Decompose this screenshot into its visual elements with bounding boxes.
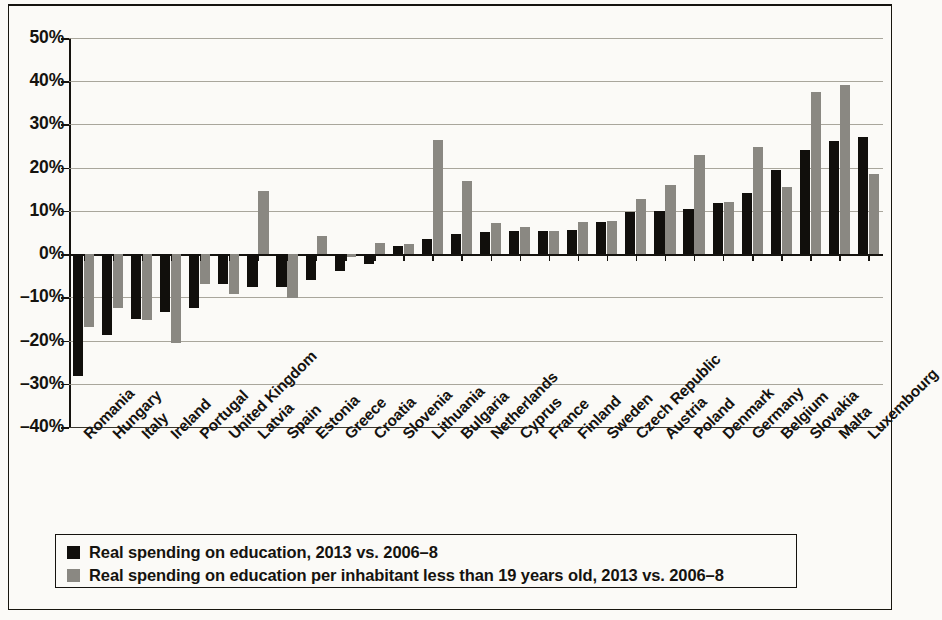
bar-dark-spain <box>276 254 286 286</box>
bar-group <box>800 38 821 427</box>
y-axis-label--30: –30% <box>6 373 64 394</box>
bar-dark-germany <box>742 193 752 254</box>
bar-group <box>829 38 850 427</box>
plot-area <box>69 38 883 427</box>
bar-dark-finland <box>567 230 577 254</box>
y-axis-label--10: –10% <box>6 286 64 307</box>
legend-label-0: Real spending on education, 2013 vs. 200… <box>89 543 438 562</box>
bar-gray-ireland <box>171 254 181 343</box>
x-tick-27 <box>868 254 869 261</box>
bar-dark-portugal <box>189 254 199 308</box>
bar-dark-france <box>538 231 548 254</box>
bar-dark-united-kingdom <box>218 254 228 284</box>
bar-dark-sweden <box>596 222 606 254</box>
bar-gray-germany <box>753 147 763 254</box>
bar-dark-belgium <box>771 170 781 254</box>
bar-gray-cyprus <box>520 227 530 254</box>
x-tick-15 <box>520 254 521 261</box>
x-tick-12 <box>432 254 433 261</box>
bar-dark-ireland <box>160 254 170 312</box>
legend-entry-1: Real spending on education per inhabitan… <box>67 564 796 587</box>
x-tick-3 <box>171 254 172 261</box>
bar-gray-sweden <box>607 221 617 254</box>
x-tick-6 <box>258 254 259 261</box>
bar-dark-bulgaria <box>451 234 461 254</box>
bar-dark-lithuania <box>422 239 432 254</box>
bar-gray-spain <box>287 254 297 298</box>
y-tick--10 <box>61 297 69 299</box>
y-axis-label-30: 30% <box>6 113 64 134</box>
bar-gray-belgium <box>782 187 792 254</box>
bar-group <box>654 38 675 427</box>
bar-gray-bulgaria <box>462 181 472 254</box>
y-tick-40 <box>61 81 69 83</box>
bar-dark-luxembourg <box>858 137 868 254</box>
bar-dark-estonia <box>306 254 316 280</box>
y-tick--40 <box>61 427 69 429</box>
bar-gray-malta <box>840 85 850 254</box>
y-tick-10 <box>61 211 69 213</box>
bar-gray-romania <box>84 254 94 327</box>
x-tick-8 <box>316 254 317 261</box>
x-tick-22 <box>723 254 724 261</box>
y-tick--20 <box>61 341 69 343</box>
bar-group <box>102 38 123 427</box>
x-tick-9 <box>345 254 346 261</box>
bar-dark-italy <box>131 254 141 319</box>
legend-label-1: Real spending on education per inhabitan… <box>89 566 724 585</box>
bar-dark-slovenia <box>393 246 403 254</box>
x-tick-5 <box>229 254 230 261</box>
x-axis-labels: RomaniaHungaryItalyIrelandPortugalUnited… <box>69 430 883 530</box>
bar-dark-austria <box>654 211 664 254</box>
bar-gray-luxembourg <box>869 174 879 254</box>
bar-group <box>509 38 530 427</box>
bar-dark-poland <box>683 209 693 254</box>
bar-group <box>625 38 646 427</box>
x-tick-19 <box>636 254 637 261</box>
bar-group <box>771 38 792 427</box>
bar-gray-greece <box>346 254 356 257</box>
bar-dark-hungary <box>102 254 112 334</box>
bar-dark-slovakia <box>800 150 810 255</box>
y-tick-20 <box>61 168 69 170</box>
bar-gray-latvia <box>258 191 268 254</box>
x-tick-25 <box>810 254 811 261</box>
y-tick-30 <box>61 124 69 126</box>
bars-container <box>69 38 883 427</box>
y-axis-label-40: 40% <box>6 70 64 91</box>
bar-gray-lithuania <box>433 140 443 254</box>
bar-gray-czech-republic <box>636 199 646 254</box>
bar-dark-greece <box>335 254 345 270</box>
y-axis-labels: 50%40%30%20%10%0%–10%–20%–30%–40% <box>0 38 64 427</box>
y-axis-label-10: 10% <box>6 200 64 221</box>
x-tick-0 <box>84 254 85 261</box>
x-tick-17 <box>578 254 579 261</box>
bar-gray-hungary <box>113 254 123 308</box>
y-axis-label--20: –20% <box>6 330 64 351</box>
y-tick-50 <box>61 38 69 40</box>
bar-group <box>596 38 617 427</box>
bar-gray-france <box>549 231 559 254</box>
bar-group <box>218 38 239 427</box>
x-tick-18 <box>607 254 608 261</box>
x-tick-13 <box>461 254 462 261</box>
bar-group <box>160 38 181 427</box>
bar-dark-romania <box>73 254 83 376</box>
x-tick-16 <box>549 254 550 261</box>
bar-group <box>131 38 152 427</box>
bar-gray-estonia <box>317 236 327 254</box>
y-axis-label--40: –40% <box>6 416 64 437</box>
bar-dark-croatia <box>364 254 374 264</box>
bar-gray-slovenia <box>404 244 414 254</box>
bar-group <box>480 38 501 427</box>
bar-group <box>393 38 414 427</box>
y-tick-0 <box>61 254 69 256</box>
x-tick-23 <box>752 254 753 261</box>
bar-dark-denmark <box>713 203 723 254</box>
bar-group <box>858 38 879 427</box>
bar-dark-netherlands <box>480 232 490 254</box>
bar-gray-slovakia <box>811 92 821 254</box>
chart-legend: Real spending on education, 2013 vs. 200… <box>55 534 797 588</box>
legend-entry-0: Real spending on education, 2013 vs. 200… <box>67 541 796 564</box>
y-axis-label-20: 20% <box>6 157 64 178</box>
